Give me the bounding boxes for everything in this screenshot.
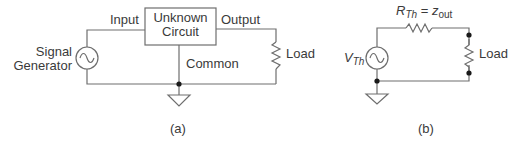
- signal-generator-label-line2: Generator: [8, 59, 72, 73]
- equals-sign: =: [421, 3, 429, 18]
- terminal-dot: [466, 32, 471, 37]
- load-resistor-a: [272, 42, 280, 69]
- box-label-line1: Unknown: [145, 11, 216, 25]
- signal-generator-label: Signal Generator: [8, 45, 72, 73]
- vth-subscript: Th: [353, 56, 365, 67]
- junction-dot: [374, 78, 379, 83]
- thevenin-equivalent-figure: Signal Generator Input Unknown Circuit O…: [0, 0, 519, 144]
- caption-a: (a): [170, 122, 186, 136]
- rth-symbol: R: [396, 3, 405, 18]
- load-label-b: Load: [479, 47, 508, 61]
- zout-subscript: out: [438, 9, 452, 20]
- rth-subscript: Th: [405, 9, 417, 20]
- signal-generator-label-line1: Signal: [8, 45, 72, 59]
- sine-wave-icon: [370, 54, 384, 63]
- output-label: Output: [221, 13, 260, 27]
- input-label: Input: [110, 13, 139, 27]
- terminal-dot: [466, 70, 471, 75]
- common-label: Common: [186, 57, 239, 71]
- load-resistor-b: [465, 39, 473, 73]
- circuit-b-wires: [377, 28, 469, 94]
- junction-dot: [176, 81, 181, 86]
- unknown-circuit-label: Unknown Circuit: [145, 11, 216, 39]
- load-label-a: Load: [286, 47, 315, 61]
- caption-b: (b): [418, 122, 434, 136]
- sine-wave-icon: [80, 54, 94, 63]
- box-label-line2: Circuit: [145, 25, 216, 39]
- rth-resistor: [406, 24, 432, 32]
- rth-equals-zout-label: RTh = zout: [396, 4, 452, 22]
- ground-icon-b: [366, 94, 388, 104]
- vth-symbol: V: [344, 50, 353, 65]
- ground-icon-a: [168, 95, 190, 106]
- vth-label: VTh: [344, 51, 364, 69]
